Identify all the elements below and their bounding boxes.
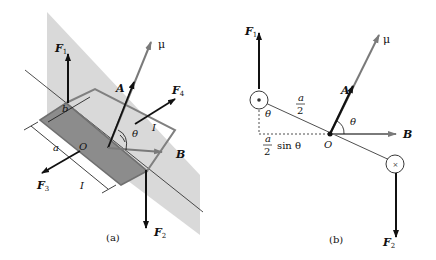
label-b-field-b: B xyxy=(402,128,412,141)
label-f1-b: F1 xyxy=(244,25,257,39)
label-a: a xyxy=(53,142,59,153)
dot-icon xyxy=(257,98,261,102)
label-f2-b: F2 xyxy=(382,236,395,250)
label-origin-o: O xyxy=(79,141,87,152)
force-f3-arrow xyxy=(42,151,80,173)
label-theta-right: θ xyxy=(350,116,356,127)
label-half-a-num: a xyxy=(298,92,304,103)
caption-a: (a) xyxy=(106,232,120,243)
label-current-bottom: I xyxy=(79,180,85,191)
label-theta: θ xyxy=(132,128,138,139)
theta-arc-right xyxy=(337,121,344,134)
label-b: b xyxy=(62,103,68,114)
label-a-vector: A xyxy=(115,82,125,95)
torque-on-current-loop-diagram: F1 μ A F4 B θ I b O F3 a I F2 xyxy=(0,0,436,260)
label-sin-theta: sin θ xyxy=(277,140,301,151)
caption-b: (b) xyxy=(329,234,343,245)
loop-cross-section xyxy=(259,100,394,162)
label-half-sin-num: a xyxy=(265,133,271,144)
label-mu-b: μ xyxy=(383,33,390,46)
label-origin-o-b: O xyxy=(324,139,332,150)
label-mu: μ xyxy=(158,38,165,51)
label-f4: F4 xyxy=(171,84,185,98)
label-half-a-den: 2 xyxy=(297,105,303,116)
figure-a: F1 μ A F4 B θ I b O F3 a I F2 xyxy=(24,12,203,243)
figure-b: F1 × F2 B μ A O θ θ a 2 a 2 xyxy=(244,25,412,250)
label-a-vector-b: A xyxy=(340,84,350,97)
label-b-field: B xyxy=(175,148,185,161)
cross-icon: × xyxy=(393,161,399,169)
label-half-sin-den: 2 xyxy=(264,146,270,157)
label-f2: F2 xyxy=(153,226,166,240)
label-f3: F3 xyxy=(36,179,49,193)
origin-point xyxy=(328,132,333,137)
label-theta-left: θ xyxy=(265,108,271,119)
